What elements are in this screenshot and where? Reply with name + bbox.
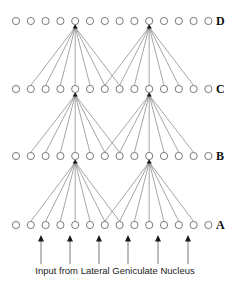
neuron-node (160, 85, 167, 92)
connection-edge (149, 27, 164, 85)
neuron-nodes (12, 17, 212, 228)
neuron-node (116, 17, 123, 24)
neuron-node (86, 17, 93, 24)
neuron-node (116, 221, 123, 228)
neuron-node (57, 85, 64, 92)
neuron-node (27, 17, 34, 24)
layer-labels: DCBA (216, 14, 225, 232)
neuron-node (27, 221, 34, 228)
neuron-node (57, 221, 64, 228)
connection-edge (46, 27, 76, 85)
neuron-node (160, 17, 167, 24)
connection-edge (149, 95, 164, 152)
connection-edges (31, 24, 194, 221)
neuron-node (205, 221, 212, 228)
neural-layer-diagram: DCBA Input from Lateral Geniculate Nucle… (0, 0, 238, 287)
connection-edge (46, 162, 76, 221)
neuron-node (131, 152, 138, 159)
neuron-node (86, 221, 93, 228)
neuron-node (116, 85, 123, 92)
connection-edge (31, 27, 75, 85)
input-arrowhead-icon (67, 235, 73, 242)
layer-label-a: A (216, 218, 225, 232)
neuron-node (146, 152, 153, 159)
connection-edge (105, 162, 149, 221)
connection-edge (60, 95, 75, 152)
connection-edge (75, 162, 105, 221)
neuron-node (42, 85, 49, 92)
neuron-node (101, 85, 108, 92)
neuron-node (42, 152, 49, 159)
connection-edge (149, 162, 193, 221)
connection-edge (31, 95, 75, 152)
neuron-node (72, 17, 79, 24)
connection-edge (60, 27, 75, 85)
connection-edge (75, 27, 119, 85)
neuron-node (205, 152, 212, 159)
connection-edge (120, 95, 150, 152)
neuron-node (27, 85, 34, 92)
neuron-node (131, 17, 138, 24)
neuron-node (131, 85, 138, 92)
connection-edge (149, 162, 164, 221)
connection-edge (105, 95, 149, 152)
input-arrowhead-icon (185, 235, 191, 242)
neuron-node (175, 221, 182, 228)
input-caption: Input from Lateral Geniculate Nucleus (35, 265, 195, 276)
neuron-node (12, 152, 19, 159)
neuron-node (175, 17, 182, 24)
neuron-node (12, 85, 19, 92)
connection-edge (105, 27, 149, 85)
neuron-node (160, 152, 167, 159)
layer-label-d: D (216, 14, 225, 28)
neuron-node (72, 221, 79, 228)
neuron-node (86, 85, 93, 92)
neuron-node (42, 17, 49, 24)
neuron-node (86, 152, 93, 159)
neuron-node (190, 17, 197, 24)
neuron-node (175, 152, 182, 159)
connection-edge (120, 162, 150, 221)
neuron-node (205, 85, 212, 92)
connection-edge (149, 27, 179, 85)
connection-edge (134, 162, 149, 221)
connection-edge (75, 27, 105, 85)
connection-edge (134, 27, 149, 85)
neuron-node (146, 17, 153, 24)
connection-edge (149, 95, 179, 152)
neuron-node (12, 221, 19, 228)
neuron-node (57, 17, 64, 24)
connection-edge (75, 27, 90, 85)
connection-edge (75, 95, 105, 152)
connection-edge (149, 162, 179, 221)
neuron-node (175, 85, 182, 92)
connection-edge (75, 162, 90, 221)
neuron-node (101, 152, 108, 159)
connection-edge (75, 95, 90, 152)
layer-label-b: B (216, 149, 224, 163)
neuron-node (42, 221, 49, 228)
connection-edge (149, 95, 193, 152)
connection-edge (60, 162, 75, 221)
neuron-node (205, 17, 212, 24)
neuron-node (190, 85, 197, 92)
neuron-node (101, 221, 108, 228)
neuron-node (160, 221, 167, 228)
input-arrowhead-icon (96, 235, 102, 242)
connection-edge (149, 27, 193, 85)
neuron-node (101, 17, 108, 24)
input-arrowhead-icon (155, 235, 161, 242)
neuron-node (131, 221, 138, 228)
layer-label-c: C (216, 82, 225, 96)
neuron-node (190, 221, 197, 228)
connection-edge (31, 162, 75, 221)
input-arrowhead-icon (125, 235, 131, 242)
connection-edge (75, 95, 119, 152)
neuron-node (72, 85, 79, 92)
connection-edge (75, 162, 119, 221)
neuron-node (146, 85, 153, 92)
neuron-node (190, 152, 197, 159)
neuron-node (116, 152, 123, 159)
connection-edge (134, 95, 149, 152)
lgn-input-arrows (38, 235, 191, 264)
